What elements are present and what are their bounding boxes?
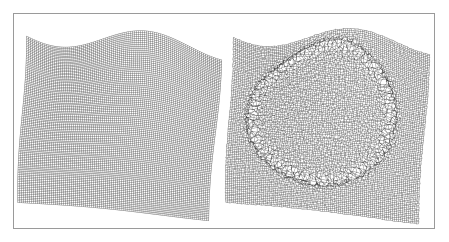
mesh-canvas-right — [224, 14, 434, 228]
figure-frame: Undisturbed deformed mesh Perturbed mesh… — [13, 13, 435, 229]
figure-title: Deformed computational mesh comparison — [0, 21, 1, 22]
mesh-canvas-left — [14, 14, 224, 228]
mesh-panel-right: Perturbed mesh with circular inclusion — [224, 14, 434, 228]
mesh-panel-left: Undisturbed deformed mesh — [14, 14, 224, 228]
figure-root: Deformed computational mesh comparison U… — [0, 0, 449, 242]
